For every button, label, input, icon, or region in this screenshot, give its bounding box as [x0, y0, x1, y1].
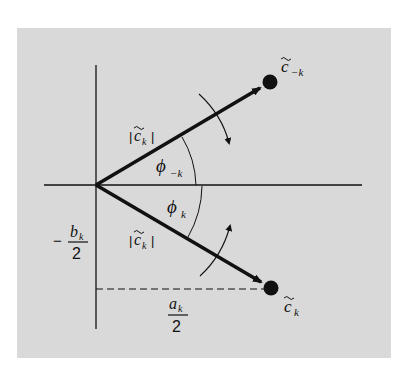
svg-text:|: | [129, 233, 132, 248]
svg-text:|: | [151, 233, 154, 248]
svg-text:k: k [142, 240, 147, 251]
svg-text:−k: −k [170, 167, 183, 179]
svg-text:|: | [129, 129, 132, 144]
svg-text:|: | [151, 129, 154, 144]
svg-text:−k: −k [291, 66, 304, 78]
svg-text:2: 2 [72, 245, 81, 262]
point-c-k [264, 281, 279, 296]
svg-text:a: a [169, 295, 177, 312]
svg-text:k: k [142, 136, 147, 147]
svg-text:2: 2 [172, 318, 181, 335]
svg-text:−: − [53, 232, 62, 249]
complex-conjugate-phasor-diagram: c −k c k | c k | | c k | ϕ −k ϕ k − b k [0, 0, 414, 369]
svg-text:c: c [281, 57, 289, 76]
svg-text:k: k [178, 303, 183, 314]
diagram-panel [17, 28, 391, 358]
svg-text:k: k [79, 231, 84, 242]
svg-text:b: b [70, 223, 78, 240]
svg-text:ϕ: ϕ [156, 155, 166, 176]
svg-text:ϕ: ϕ [167, 196, 177, 217]
point-c-minus-k [263, 75, 278, 90]
